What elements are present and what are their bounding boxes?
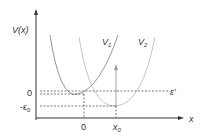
transition-arrow-head-icon bbox=[114, 64, 118, 70]
curve2-label: V2 bbox=[138, 37, 148, 48]
energy-label: ε′ bbox=[170, 87, 176, 97]
x-tick-x0: x0 bbox=[112, 122, 122, 133]
potential-diagram: V(x) x V1 V2 ε′ 0 -ε0 0 x0 bbox=[0, 0, 200, 138]
y-axis-label: V(x) bbox=[12, 25, 29, 35]
x-tick-zero: 0 bbox=[81, 122, 86, 132]
x-axis-arrow-icon bbox=[178, 116, 184, 120]
curve1-label: V1 bbox=[102, 37, 111, 48]
y-axis-arrow-icon bbox=[34, 9, 38, 15]
x-axis-label: x bbox=[188, 114, 194, 124]
y-tick-neg-eps: -ε0 bbox=[20, 102, 31, 113]
y-tick-zero: 0 bbox=[27, 88, 32, 98]
